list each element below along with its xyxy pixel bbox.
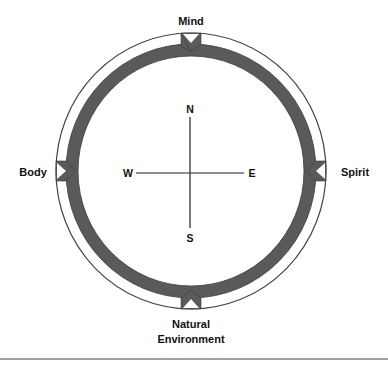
compass-west-label: W [123,167,133,179]
compass-south-label: S [186,232,193,244]
label-body: Body [19,166,47,178]
medicine-wheel-diagram: N S W E Mind Body Spirit Natural Environ… [0,0,388,366]
label-natural: Natural [172,318,210,330]
label-environment: Environment [157,333,225,345]
compass-east-label: E [248,167,255,179]
compass-north-label: N [186,103,194,115]
label-mind: Mind [178,15,204,27]
outer-circle [56,33,326,309]
label-spirit: Spirit [341,166,369,178]
